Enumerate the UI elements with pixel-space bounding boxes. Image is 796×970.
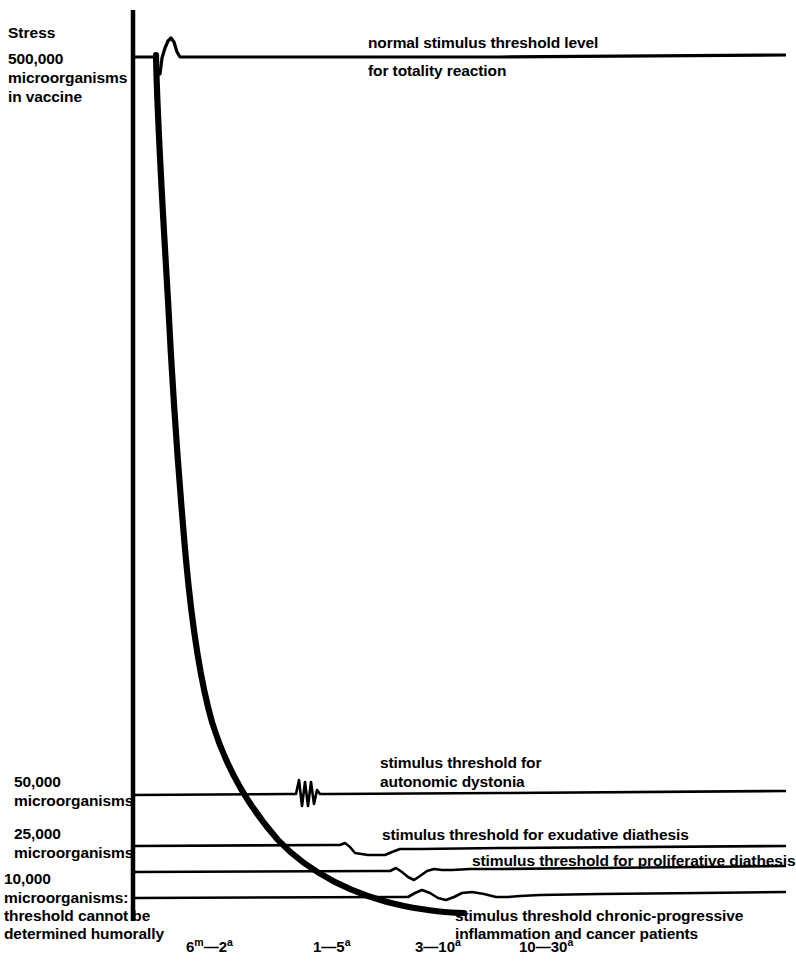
annotation-dystonia-line1: stimulus threshold for bbox=[380, 753, 541, 772]
y-axis-title: Stress bbox=[8, 24, 55, 42]
annotation-chronic-line1: stimulus threshold chronic-progressive bbox=[455, 906, 743, 925]
y-label-10000-note-line1: threshold cannot be bbox=[4, 906, 150, 925]
y-label-50000-unit: microorganisms bbox=[14, 791, 133, 810]
x-tick-1-base2: 2 bbox=[219, 938, 227, 955]
annotation-exudative-diathesis: stimulus threshold for exudative diathes… bbox=[382, 825, 689, 844]
stress-threshold-chart: Stress 500,000 microorganisms in vaccine… bbox=[0, 0, 796, 970]
annotation-dystonia-line2: autonomic dystonia bbox=[380, 772, 525, 791]
x-tick-3: 3—10a bbox=[415, 938, 461, 955]
x-tick-4: 10—30a bbox=[519, 938, 573, 955]
x-tick-1-sup1: m bbox=[194, 936, 203, 948]
x-tick-4-dash: — bbox=[536, 938, 551, 955]
x-tick-1-sup2: a bbox=[227, 936, 233, 948]
y-label-25000-unit: microorganisms bbox=[14, 843, 133, 862]
x-tick-1: 6m—2a bbox=[186, 938, 233, 955]
y-label-25000-value: 25,000 bbox=[14, 824, 61, 843]
y-label-10000-note-line2: determined humorally bbox=[4, 924, 164, 943]
y-label-500000-context: in vaccine bbox=[8, 87, 82, 106]
x-tick-4-base2: 30 bbox=[551, 938, 568, 955]
threshold-line-chronic-progressive bbox=[133, 890, 786, 900]
x-tick-3-dash: — bbox=[423, 938, 438, 955]
x-tick-4-sup2: a bbox=[567, 936, 573, 948]
x-tick-2-dash: — bbox=[321, 938, 336, 955]
x-tick-2-base2: 5 bbox=[336, 938, 344, 955]
annotation-totality-line1: normal stimulus threshold level bbox=[368, 33, 598, 52]
x-tick-2-sup2: a bbox=[345, 936, 351, 948]
x-tick-3-sup2: a bbox=[455, 936, 461, 948]
y-label-500000-value: 500,000 bbox=[8, 49, 63, 68]
y-label-50000-value: 50,000 bbox=[14, 772, 61, 791]
y-label-10000-value: 10,000 bbox=[4, 869, 51, 888]
annotation-totality-line2: for totality reaction bbox=[368, 61, 506, 80]
y-label-10000-unit: microorganisms: bbox=[4, 888, 128, 907]
x-tick-4-base1: 10 bbox=[519, 938, 536, 955]
x-tick-2: 1—5a bbox=[313, 938, 351, 955]
y-label-500000-unit: microorganisms bbox=[8, 68, 127, 87]
annotation-chronic-line2: inflammation and cancer patients bbox=[455, 924, 698, 943]
x-tick-1-dash: — bbox=[204, 938, 219, 955]
annotation-proliferative-diathesis: stimulus threshold for proliferative dia… bbox=[472, 851, 796, 870]
x-tick-3-base2: 10 bbox=[438, 938, 455, 955]
